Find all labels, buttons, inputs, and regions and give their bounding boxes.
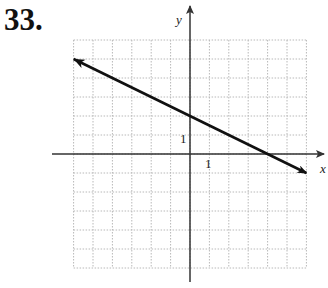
coordinate-plane: x y 1 1 (0, 0, 328, 288)
y-tick-label: 1 (180, 131, 187, 146)
x-axis-label: x (319, 161, 326, 176)
x-tick-label: 1 (205, 156, 212, 171)
y-axis-label: y (174, 12, 182, 27)
